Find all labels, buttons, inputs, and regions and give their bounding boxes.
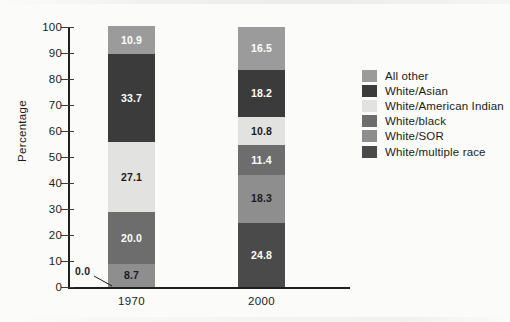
bar-segment[interactable]: 33.7 bbox=[108, 54, 155, 142]
legend-color-swatch bbox=[362, 115, 377, 127]
bar-segment[interactable]: 27.1 bbox=[108, 142, 155, 212]
bar-segment[interactable]: 11.4 bbox=[238, 145, 285, 175]
y-axis-tick bbox=[61, 53, 74, 54]
bar-segment-value: 20.0 bbox=[121, 233, 142, 244]
y-axis-tick-label: 40 bbox=[49, 177, 62, 189]
y-axis-tick-label: 10 bbox=[49, 255, 62, 267]
y-axis-tick bbox=[61, 287, 74, 288]
y-axis-tick-label: 70 bbox=[49, 99, 62, 111]
bar-segment[interactable]: 10.8 bbox=[238, 117, 285, 145]
legend-item-label: White/American Indian bbox=[385, 100, 504, 112]
stacked-bar-chart: Percentage 0102030405060708090100 8.720.… bbox=[0, 0, 510, 322]
y-axis-tick-label: 90 bbox=[49, 47, 62, 59]
y-axis-tick bbox=[61, 261, 74, 262]
bar-segment[interactable]: 20.0 bbox=[108, 212, 155, 264]
bar-segment[interactable]: 18.3 bbox=[238, 175, 285, 223]
bar-segment[interactable]: 24.8 bbox=[238, 223, 285, 287]
bar-segment-value: 11.4 bbox=[251, 155, 272, 166]
bar-2000[interactable]: 24.818.311.410.818.216.5 bbox=[238, 27, 285, 287]
chart-legend: All otherWhite/AsianWhite/American India… bbox=[362, 68, 504, 159]
y-axis-tick bbox=[61, 79, 74, 80]
bar-segment-value: 16.5 bbox=[251, 43, 272, 54]
y-axis-title: Percentage bbox=[16, 100, 28, 162]
y-axis-tick-label: 80 bbox=[49, 73, 62, 85]
bar-segment-value: 33.7 bbox=[121, 93, 142, 104]
legend-item[interactable]: White/SOR bbox=[362, 129, 504, 144]
legend-color-swatch bbox=[362, 146, 377, 158]
zero-value-callout-leader-line bbox=[75, 273, 135, 303]
legend-item-label: White/multiple race bbox=[385, 146, 486, 158]
bar-segment-value: 18.2 bbox=[251, 88, 272, 99]
bar-segment-value: 10.8 bbox=[251, 126, 272, 137]
y-axis-line bbox=[68, 27, 70, 289]
y-axis-tick bbox=[61, 105, 74, 106]
bar-segment[interactable]: 16.5 bbox=[238, 27, 285, 70]
y-axis-tick-label: 60 bbox=[49, 125, 62, 137]
y-axis-tick bbox=[61, 157, 74, 158]
y-axis-tick-label: 50 bbox=[49, 151, 62, 163]
y-axis-tick-label: 100 bbox=[42, 21, 62, 33]
y-axis-tick bbox=[61, 183, 74, 184]
bar-segment-value: 27.1 bbox=[121, 172, 142, 183]
legend-color-swatch bbox=[362, 100, 377, 112]
y-axis-tick bbox=[61, 27, 74, 28]
legend-item-label: All other bbox=[385, 70, 429, 82]
bar-segment[interactable]: 10.9 bbox=[108, 26, 155, 54]
y-axis-tick-label: 30 bbox=[49, 203, 62, 215]
y-axis-tick-label: 20 bbox=[49, 229, 62, 241]
y-axis-tick bbox=[61, 235, 74, 236]
plot-area: 0102030405060708090100 8.720.027.133.710… bbox=[68, 27, 346, 289]
legend-color-swatch bbox=[362, 85, 377, 97]
bar-segment-value: 10.9 bbox=[121, 35, 142, 46]
y-axis-tick-label: 0 bbox=[55, 281, 62, 293]
legend-color-swatch bbox=[362, 70, 377, 82]
bar-1970[interactable]: 8.720.027.133.710.9 bbox=[108, 26, 155, 287]
legend-item-label: White/Asian bbox=[385, 85, 448, 97]
y-axis-tick bbox=[61, 131, 74, 132]
bar-segment[interactable]: 18.2 bbox=[238, 70, 285, 117]
legend-item-label: White/black bbox=[385, 115, 446, 127]
legend-item[interactable]: White/Asian bbox=[362, 83, 504, 98]
bar-segment-value: 24.8 bbox=[251, 250, 272, 261]
legend-color-swatch bbox=[362, 130, 377, 142]
legend-item[interactable]: White/black bbox=[362, 114, 504, 129]
x-axis-tick-label-2000: 2000 bbox=[248, 295, 275, 307]
bar-segment-value: 18.3 bbox=[251, 193, 272, 204]
legend-item-label: White/SOR bbox=[385, 130, 444, 142]
y-axis-tick bbox=[61, 209, 74, 210]
legend-item[interactable]: All other bbox=[362, 68, 504, 83]
legend-item[interactable]: White/multiple race bbox=[362, 144, 504, 159]
legend-item[interactable]: White/American Indian bbox=[362, 98, 504, 113]
